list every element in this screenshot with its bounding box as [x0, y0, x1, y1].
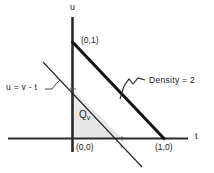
region-label-subscript-v: v [87, 114, 91, 121]
region-label-qv: Qv [79, 110, 90, 120]
point-label-top-vertex: (0,1) [81, 36, 98, 45]
t-axis-label: t [195, 132, 198, 141]
tick-label-v-t-axis: v [120, 143, 123, 149]
u-axis-label: u [70, 3, 75, 12]
tick-label-v-u-axis: v [71, 86, 74, 92]
figure-container: u t (0,1) (0,0) (1,0) v v u = v - t Dens… [0, 0, 214, 173]
point-label-origin: (0,0) [76, 143, 93, 152]
point-label-right-vertex: (1,0) [155, 143, 172, 152]
density-label: Density = 2 [149, 76, 195, 85]
region-label-q: Q [79, 109, 87, 120]
line-equation-label: u = v - t [6, 83, 37, 92]
equation-leader-line [45, 80, 60, 89]
